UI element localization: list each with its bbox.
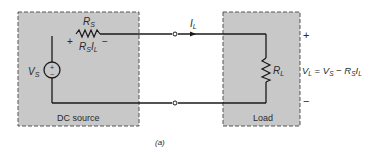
dc-source-box	[18, 12, 139, 126]
terminal-top	[173, 32, 177, 36]
source-minus-sign: −	[50, 71, 54, 78]
figure-caption: (a)	[155, 138, 165, 147]
source-plus-sign: +	[50, 64, 54, 71]
output-equation: VL = VS − RSIL	[302, 65, 362, 77]
dc-source-label: DC source	[57, 113, 100, 123]
terminal-bottom	[173, 101, 177, 105]
current-arrow-icon	[190, 32, 196, 37]
circuit-diagram: + − VS RS + − RSIL IL RL DC source Load …	[0, 0, 381, 152]
output-minus-sign: −	[303, 95, 309, 107]
rs-minus-sign: −	[102, 36, 108, 47]
output-plus-sign: +	[303, 29, 309, 41]
il-label: IL	[190, 18, 197, 30]
load-label: Load	[253, 113, 273, 123]
rs-plus-sign: +	[67, 36, 73, 47]
